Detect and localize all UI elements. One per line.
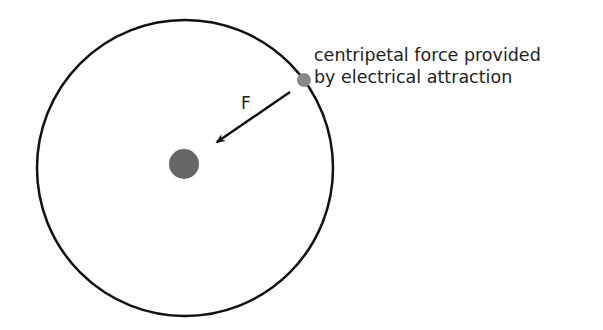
force-arrow	[217, 92, 290, 142]
caption-line-2: by electrical attraction	[314, 66, 541, 88]
nucleus	[169, 149, 199, 179]
electron	[297, 73, 311, 87]
force-label: F	[241, 93, 251, 113]
caption: centripetal force provided by electrical…	[314, 44, 541, 88]
caption-line-1: centripetal force provided	[314, 44, 541, 66]
